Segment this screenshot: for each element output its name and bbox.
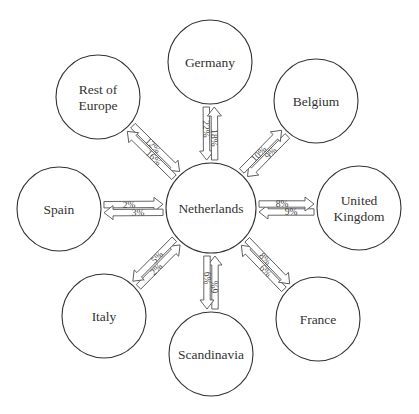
node-france: France [276, 277, 360, 361]
node-rest-of-europe: Rest ofEurope [56, 55, 140, 139]
node-united-kingdom-circle [317, 166, 401, 250]
arrow-netherlands-to-germany-label: 18% [209, 129, 219, 147]
arrow-netherlands-to-spain-label: 3% [132, 208, 145, 218]
node-italy-label: Italy [92, 309, 117, 324]
arrow-netherlands-to-italy: 5% [128, 234, 179, 286]
arrow-france-to-netherlands: 6% [236, 240, 289, 294]
node-germany: Germany [168, 20, 252, 104]
arrow-netherlands-to-united-kingdom-label: 8% [276, 199, 289, 209]
arrow-netherlands-to-scandinavia-label: 6% [202, 272, 212, 285]
node-rest-of-europe-circle [56, 55, 140, 139]
node-france-label: France [300, 312, 337, 327]
node-netherlands: Netherlands [166, 163, 256, 253]
node-netherlands-label: Netherlands [178, 201, 243, 216]
node-rest-of-europe-label: Rest of [79, 82, 118, 97]
node-germany-label: Germany [185, 55, 235, 70]
arrow-netherlands-to-rest-of-europe: 16% [122, 126, 178, 182]
node-italy: Italy [62, 274, 146, 358]
node-united-kingdom-label: Kingdom [333, 209, 385, 224]
flow-diagram: 22%18%9%10%9%8%6%8%6%6%2%5%2%3%12%16% Ne… [0, 0, 419, 414]
node-united-kingdom: UnitedKingdom [317, 166, 401, 250]
arrow-netherlands-to-belgium: 10% [237, 125, 287, 175]
arrow-rest-of-europe-to-netherlands: 12% [128, 121, 184, 177]
node-scandinavia-label: Scandinavia [178, 347, 244, 362]
node-scandinavia: Scandinavia [169, 312, 253, 396]
node-spain: Spain [17, 167, 101, 251]
nodes-layer: NetherlandsGermanyBelgiumUnitedKingdomFr… [17, 20, 401, 396]
node-united-kingdom-label: United [341, 193, 378, 208]
node-belgium: Belgium [274, 59, 358, 143]
node-spain-label: Spain [44, 202, 75, 217]
node-rest-of-europe-label: Europe [79, 98, 118, 113]
node-belgium-label: Belgium [293, 94, 340, 109]
arrow-netherlands-to-france: 8% [242, 235, 295, 289]
arrow-italy-to-netherlands: 2% [134, 240, 185, 292]
